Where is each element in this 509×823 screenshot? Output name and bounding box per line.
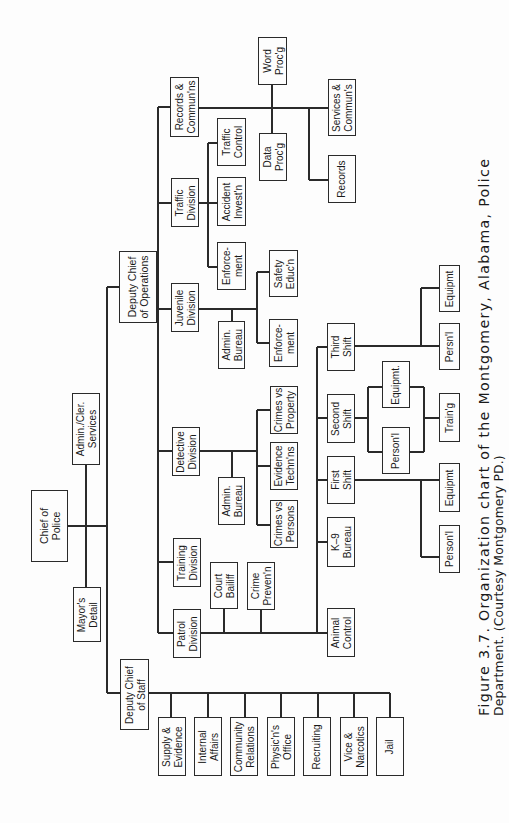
connector-line (158, 308, 171, 309)
connector-line (68, 525, 107, 526)
org-box-crimes-vs-persons: Crimes vs Persons (270, 500, 298, 548)
org-chart-page: Chief of PoliceAdmin./Cler. ServicesMayo… (0, 0, 509, 823)
org-box-label: Internal Affairs (197, 730, 220, 763)
connector-line (257, 342, 269, 343)
org-box-label: Enforce- ment (220, 247, 243, 285)
org-box-crime-prevention: Crime Preven'n (247, 562, 275, 610)
org-box-label: Crime Preven'n (250, 566, 273, 605)
connector-line (317, 541, 327, 542)
connector-line (158, 106, 170, 107)
org-box-third-shift-personnel: Persn'l (439, 323, 460, 370)
org-box-label: Data Proc'g (262, 143, 285, 171)
connector-line (420, 480, 421, 557)
connector-line (257, 465, 270, 466)
org-box-recruiting: Recruiting (303, 717, 331, 776)
org-box-label: Admin. Bureau (220, 329, 243, 361)
connector-line (106, 287, 107, 693)
connector-line (223, 609, 224, 633)
org-box-supply-evidence: Supply & Evidence (158, 717, 186, 776)
org-box-patrol-division: Patrol Division (173, 609, 201, 658)
org-box-jail: Jail (376, 717, 404, 776)
connector-line (367, 387, 368, 452)
org-box-accident-investn: Accident Invest'n (217, 177, 246, 226)
org-box-label: Detective Division (175, 431, 198, 473)
connector-line (107, 286, 119, 287)
org-box-court-bailiff: Court Bailiff (210, 562, 238, 609)
org-box-label: Second Shift (330, 402, 353, 436)
connector-line (317, 417, 327, 418)
org-box-label: Evidence Techn'ns (273, 445, 296, 486)
org-box-label: Accident Invest'n (220, 182, 243, 220)
org-box-word-procg: Word Proc'g (258, 37, 287, 85)
connector-line (368, 451, 382, 452)
org-box-label: Third Shift (330, 336, 353, 359)
org-box-label: Chief of Police (38, 508, 62, 544)
connector-line (199, 308, 257, 309)
org-box-third-shift-equipment: Equipmt (439, 265, 460, 312)
org-box-records-communs: Records & Commun'ns (170, 77, 199, 137)
connector-line (158, 450, 172, 451)
org-box-label: Word Proc'g (261, 47, 284, 75)
connector-line (158, 561, 173, 562)
org-box-second-shift: Second Shift (327, 394, 355, 443)
org-box-label: Equipmt (444, 469, 456, 506)
org-box-third-shift: Third Shift (327, 323, 355, 371)
org-box-community-relations: Community Relations (230, 717, 258, 776)
connector-line (317, 632, 327, 633)
connector-line (157, 107, 158, 633)
org-box-label: K–9 Bureau (330, 526, 353, 558)
connector-line (85, 465, 86, 587)
connector-line (309, 179, 328, 180)
connector-line (207, 693, 208, 717)
org-box-label: Records (336, 160, 348, 197)
connector-line (424, 417, 439, 418)
connector-line (316, 347, 317, 633)
org-box-label: Vice & Narcotics (343, 726, 366, 768)
org-box-label: Person'l (444, 531, 456, 567)
org-box-first-shift-equipment: Equipmt (439, 463, 460, 512)
org-box-animal-control: Animal Control (327, 608, 355, 657)
org-box-label: Training Division (176, 545, 199, 581)
org-box-physicians-office: Physic'n's Office (267, 717, 295, 776)
connector-line (200, 450, 257, 451)
org-box-label: Deputy Chief of Operations (126, 255, 150, 318)
org-box-label: Crimes vs Persons (273, 502, 296, 546)
connector-line (421, 556, 439, 557)
org-box-label: Court Bailiff (213, 573, 236, 597)
connector-line (421, 287, 439, 288)
org-box-label: Train'g (444, 403, 456, 433)
org-box-label: Traffic Division (174, 185, 197, 220)
org-box-records: Records (328, 155, 356, 203)
org-box-k9-bureau: K–9 Bureau (327, 517, 355, 567)
connector-line (355, 417, 368, 418)
org-box-label: Records & Commun'ns (173, 80, 196, 133)
connector-line (231, 451, 232, 477)
org-box-label: Admin. Bureau (220, 485, 243, 517)
org-box-mayors-detail: Mayor's Detail (73, 587, 101, 642)
org-box-second-shift-personnel: Person'l (382, 427, 410, 474)
org-box-juvenile-enforcement: Enforce- ment (269, 319, 298, 367)
org-box-first-shift-personnel: Person'l (439, 525, 460, 573)
org-box-second-shift-training: Train'g (439, 393, 460, 442)
org-box-label: Equipmt. (390, 365, 402, 404)
figure-caption: Figure 3.7. Organization chart of the Mo… (0, 0, 1, 1)
org-box-label: Traffic Control (220, 126, 243, 158)
connector-line (317, 346, 327, 347)
connector-line (423, 387, 424, 452)
connector-line (260, 610, 261, 633)
org-box-safety-education: Safety Educ'n (269, 250, 298, 297)
connector-line (280, 693, 281, 717)
org-box-detective-division: Detective Division (172, 427, 200, 476)
org-box-label: Community Relations (233, 721, 256, 772)
org-box-crimes-vs-property: Crimes vs Property (270, 386, 298, 434)
org-box-vice-narcotics: Vice & Narcotics (340, 717, 368, 776)
connector-line (208, 202, 217, 203)
org-box-label: Persn'l (444, 331, 456, 361)
org-box-juvenile-admin-bureau: Admin. Bureau (218, 321, 245, 369)
connector-line (420, 288, 421, 346)
org-box-deputy-chief-operations: Deputy Chief of Operations (119, 251, 157, 323)
org-box-label: Services & Commun's (331, 84, 354, 132)
org-box-detective-admin-bureau: Admin. Bureau (218, 477, 245, 525)
caption-line-2: Department. (Courtesy Montgomery PD.) (492, 455, 506, 716)
org-box-label: Supply & Evidence (161, 726, 184, 767)
